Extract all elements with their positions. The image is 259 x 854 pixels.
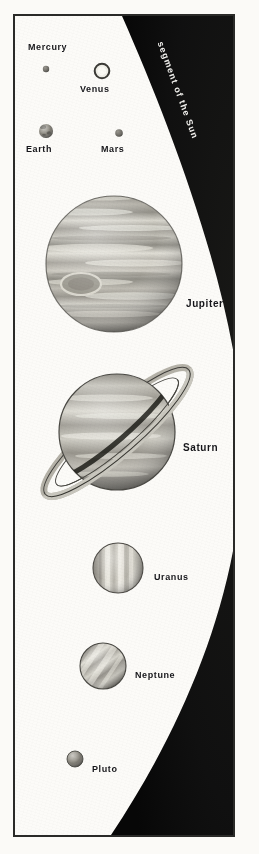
- planet-earth: [39, 124, 53, 138]
- planet-neptune: [70, 633, 127, 695]
- planet-mars: [115, 129, 123, 137]
- label-uranus: Uranus: [154, 572, 189, 582]
- planet-venus: [95, 64, 110, 79]
- label-mercury: Mercury: [28, 42, 67, 52]
- planets-artwork: [15, 16, 233, 835]
- label-saturn: Saturn: [183, 442, 218, 453]
- label-mars: Mars: [101, 144, 124, 154]
- planet-mercury: [43, 66, 49, 72]
- planet-pluto: [67, 751, 83, 767]
- label-pluto: Pluto: [92, 764, 118, 774]
- illustration-plate: Mercury Venus Earth Mars Jupiter Saturn …: [13, 14, 235, 837]
- label-venus: Venus: [80, 84, 110, 94]
- planet-saturn: [31, 353, 203, 511]
- label-neptune: Neptune: [135, 670, 175, 680]
- planet-uranus: [93, 543, 143, 593]
- label-jupiter: Jupiter: [186, 298, 224, 309]
- planet-jupiter: [37, 195, 185, 332]
- label-earth: Earth: [26, 144, 52, 154]
- solar-system-scale-figure: Mercury Venus Earth Mars Jupiter Saturn …: [0, 0, 259, 854]
